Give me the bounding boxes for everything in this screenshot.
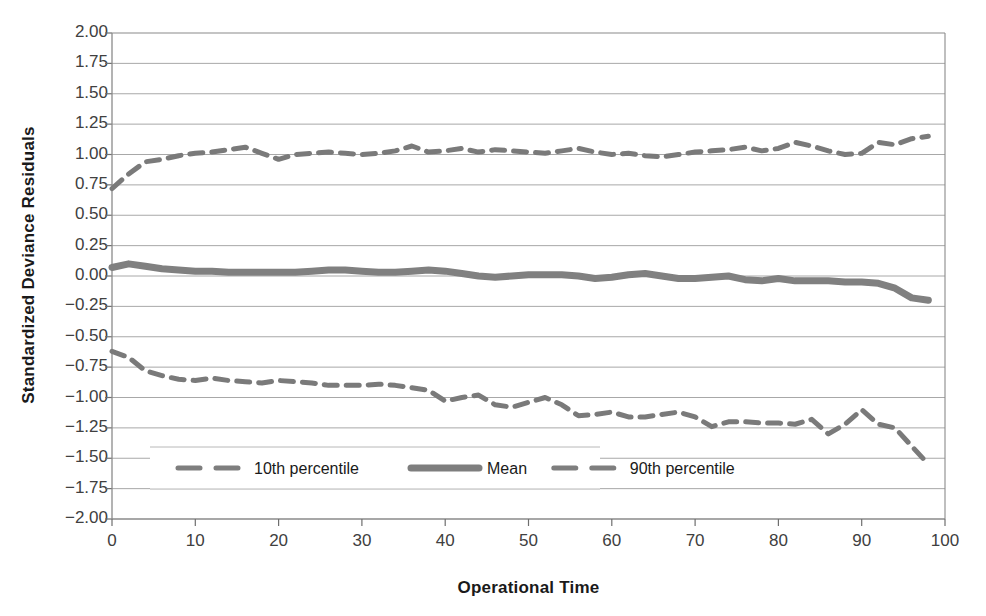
data-series-group	[112, 136, 928, 464]
series-line-2	[112, 264, 928, 300]
chart-container: Standardized Deviance Residuals Operatio…	[0, 0, 986, 616]
legend-label: Mean	[487, 460, 527, 477]
legend-label: 90th percentile	[630, 460, 735, 477]
plot-area: 10th percentileMean90th percentile	[0, 0, 986, 616]
chart-legend: 10th percentileMean90th percentile	[150, 447, 735, 489]
series-line-3	[112, 136, 928, 188]
legend-label: 10th percentile	[254, 460, 359, 477]
